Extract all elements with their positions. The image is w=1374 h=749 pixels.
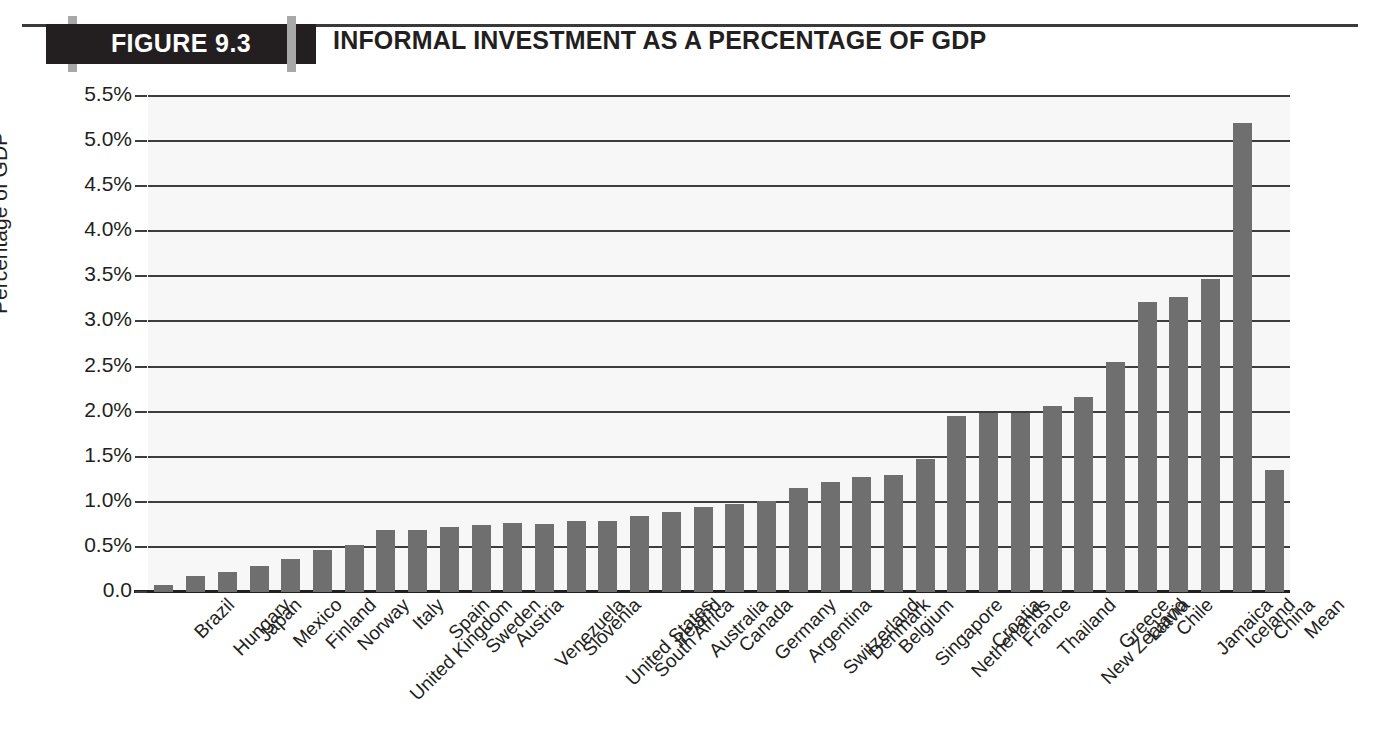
y-axis-tick-label: 3.0% xyxy=(58,307,132,331)
bar xyxy=(916,459,935,592)
y-axis-tick-label: 0.0 xyxy=(58,578,132,602)
y-axis-tick-label: 5.0% xyxy=(58,127,132,151)
y-axis-tick xyxy=(135,320,147,322)
bar xyxy=(218,572,237,592)
bar xyxy=(345,545,364,592)
bar xyxy=(281,559,300,592)
bar xyxy=(250,566,269,592)
y-axis-tick xyxy=(135,185,147,187)
bar xyxy=(1011,413,1030,592)
bar xyxy=(630,516,649,592)
y-axis-tick xyxy=(135,140,147,142)
bar xyxy=(186,576,205,592)
y-axis-tick xyxy=(135,95,147,97)
x-axis-tick-label: Italy xyxy=(408,594,448,634)
y-axis-tick xyxy=(135,411,147,413)
bar xyxy=(440,527,459,592)
bar xyxy=(567,521,586,592)
bar xyxy=(789,488,808,592)
bar xyxy=(1138,302,1157,592)
figure-header: FIGURE 9.3 INFORMAL INVESTMENT AS A PERC… xyxy=(0,0,1374,78)
bar xyxy=(1265,470,1284,592)
y-axis-tick-label: 2.0% xyxy=(58,398,132,422)
y-axis-tick xyxy=(135,366,147,368)
bar xyxy=(313,550,332,592)
bar xyxy=(725,504,744,592)
y-axis-tick xyxy=(135,546,147,548)
bar xyxy=(1169,297,1188,592)
x-axis-labels: BrazilHungaryJapanMexicoFinlandNorwayUni… xyxy=(148,594,1290,744)
bar xyxy=(1074,397,1093,592)
bar xyxy=(694,507,713,592)
y-axis-tick xyxy=(135,230,147,232)
figure-number-label: FIGURE 9.3 xyxy=(111,29,251,58)
bar xyxy=(503,523,522,592)
y-axis-tick xyxy=(135,456,147,458)
bar xyxy=(821,482,840,592)
bar xyxy=(376,530,395,592)
y-axis-labels: 5.5%5.0%4.5%4.0%3.5%3.0%2.5%2.0%1.5%1.0%… xyxy=(56,96,132,592)
bar xyxy=(1106,362,1125,592)
y-axis-tick-label: 5.5% xyxy=(58,82,132,106)
y-axis-tick-label: 0.5% xyxy=(58,533,132,557)
bar xyxy=(598,521,617,592)
y-axis-title: Percentage of GDP xyxy=(0,132,12,314)
bar xyxy=(757,501,776,592)
header-tick-right-icon xyxy=(287,16,296,72)
x-axis-tick-label: Brazil xyxy=(190,594,239,643)
bar xyxy=(979,413,998,592)
bar xyxy=(662,512,681,592)
bar xyxy=(1043,406,1062,592)
y-axis-tick-label: 3.5% xyxy=(58,262,132,286)
bar xyxy=(535,524,554,592)
bar xyxy=(1233,123,1252,592)
figure-title: INFORMAL INVESTMENT AS A PERCENTAGE OF G… xyxy=(333,26,986,55)
bar xyxy=(947,416,966,592)
y-axis-tick-label: 2.5% xyxy=(58,353,132,377)
bar xyxy=(884,475,903,592)
y-axis-tick-label: 1.5% xyxy=(58,443,132,467)
y-axis-tick xyxy=(135,591,147,593)
bar xyxy=(408,530,427,592)
bar-series xyxy=(148,96,1290,592)
bar xyxy=(852,477,871,592)
y-axis-tick-label: 1.0% xyxy=(58,488,132,512)
y-axis-tick-label: 4.5% xyxy=(58,172,132,196)
y-axis-tick-label: 4.0% xyxy=(58,217,132,241)
y-axis-tick xyxy=(135,501,147,503)
figure-number-block: FIGURE 9.3 xyxy=(46,24,316,64)
bar xyxy=(1201,279,1220,592)
bar-chart: Percentage of GDP 5.5%5.0%4.5%4.0%3.5%3.… xyxy=(0,78,1374,749)
bar xyxy=(154,585,173,592)
bar xyxy=(472,525,491,592)
y-axis-tick xyxy=(135,275,147,277)
